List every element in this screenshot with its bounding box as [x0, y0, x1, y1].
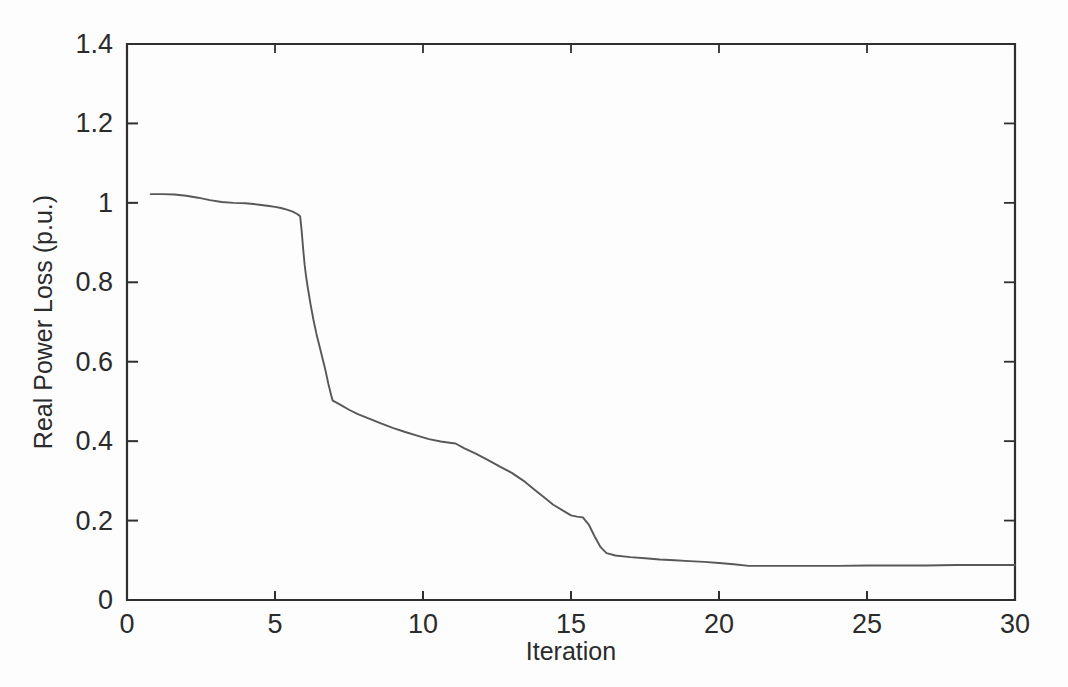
plot-axes — [127, 44, 1015, 600]
x-tick-label: 0 — [119, 609, 134, 639]
x-tick-label: 25 — [852, 609, 882, 639]
y-tick-label: 0.8 — [75, 267, 113, 297]
y-tick-label: 1.2 — [75, 108, 113, 138]
x-axis-label: Iteration — [526, 637, 616, 665]
x-tick-label: 20 — [704, 609, 734, 639]
y-tick-label: 1.4 — [75, 29, 113, 59]
x-axis-tick-labels: 051015202530 — [119, 609, 1030, 639]
line-chart: 051015202530 00.20.40.60.811.21.4 Iterat… — [0, 0, 1068, 687]
figure-canvas: 051015202530 00.20.40.60.811.21.4 Iterat… — [0, 0, 1068, 687]
x-tick-label: 15 — [556, 609, 586, 639]
data-series-line — [151, 194, 1015, 566]
y-tick-label: 0.2 — [75, 506, 113, 536]
data-series-group — [151, 194, 1015, 566]
x-tick-label: 10 — [408, 609, 438, 639]
y-axis-ticks — [127, 44, 1015, 600]
x-tick-label: 30 — [1000, 609, 1030, 639]
axis-frame — [127, 44, 1015, 600]
y-tick-label: 0.6 — [75, 347, 113, 377]
y-tick-label: 0.4 — [75, 426, 113, 456]
y-tick-label: 0 — [98, 585, 113, 615]
y-tick-label: 1 — [98, 188, 113, 218]
x-tick-label: 5 — [267, 609, 282, 639]
y-axis-tick-labels: 00.20.40.60.811.21.4 — [75, 29, 113, 615]
x-axis-ticks — [127, 44, 1015, 600]
y-axis-label: Real Power Loss (p.u.) — [29, 195, 57, 449]
